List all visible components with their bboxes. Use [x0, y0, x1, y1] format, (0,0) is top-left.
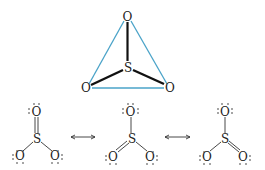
triangle-edge-right: [131, 21, 167, 84]
atom-s: S: [221, 132, 229, 146]
atom-o-left: O: [81, 81, 91, 95]
atom-o-top: O: [32, 105, 42, 119]
resonance-structure-2: O S O O: [105, 103, 158, 165]
resonance-structure-1: O S O O: [12, 103, 63, 164]
bond-s-o-right: [133, 70, 164, 84]
atom-o-top: O: [220, 105, 230, 119]
so3-3d-structure: O S O O: [81, 10, 175, 95]
resonance-structure-3: O S O O: [199, 103, 251, 165]
triangle-edge-left: [89, 21, 124, 84]
atom-o-right: O: [165, 81, 175, 95]
resonance-arrow-1: [71, 135, 95, 139]
atom-s-center: S: [124, 61, 132, 75]
atom-o-right: O: [238, 150, 248, 164]
atom-s: S: [33, 132, 41, 146]
resonance-arrow-2: [165, 135, 190, 139]
so3-diagram: O S O O O S O O: [0, 0, 265, 170]
atom-s: S: [128, 132, 136, 146]
atom-o-left: O: [108, 150, 118, 164]
atom-o-top: O: [126, 105, 136, 119]
atom-o-top: O: [123, 10, 133, 24]
